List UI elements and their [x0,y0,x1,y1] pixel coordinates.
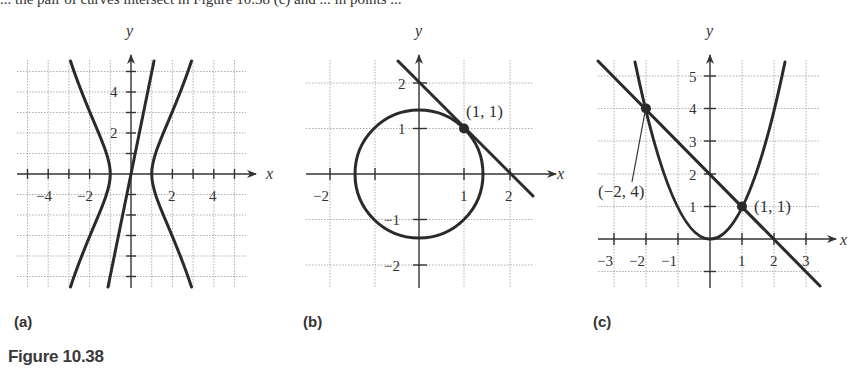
panel-a-x-axis-label: x [265,165,273,182]
panel-c-point-label-a: (−2, 4) [598,182,644,201]
y-tick-label: 2 [398,76,406,92]
y-tick-label: 4 [110,84,118,100]
y-tick-label: 5 [689,69,697,85]
panel-a-y-axis-label: y [124,22,134,40]
x-tick-label: −3 [597,253,613,269]
y-tick-label: −1 [384,212,400,228]
x-tick-label: −2 [313,188,329,204]
panel-b-x-axis-label: x [556,165,564,182]
panel-c-y-axis-label: y [704,22,714,40]
panel-c-label: (c) [593,313,611,330]
x-tick-label: −4 [36,188,52,204]
panel-c-x-axis-label: x [839,231,847,248]
x-tick-label: 2 [770,253,778,269]
y-tick-label: 1 [689,199,697,215]
x-tick-label: 2 [168,188,176,204]
y-tick-label: 4 [689,101,697,117]
y-tick-label: −2 [384,258,400,274]
y-tick-label: 2 [689,167,697,183]
x-tick-label: −1 [661,253,677,269]
x-tick-label: 3 [802,253,810,269]
y-tick-label: 2 [110,125,118,141]
panel-a-plot: −4 −2 2 4 4 2 x y [17,22,273,288]
panel-b-label: (b) [303,313,322,330]
y-tick-label: 3 [689,134,697,150]
panel-b-plot: −2 1 2 2 1 −1 −2 x y (1, 1) [306,22,564,288]
panel-a-label: (a) [14,313,32,330]
panel-a-tick-labels: −4 −2 2 4 4 2 [36,84,217,204]
x-tick-label: 1 [738,253,746,269]
figure-caption: Figure 10.38 [8,347,104,367]
panel-b-point-1-1 [459,124,469,134]
panel-b-y-axis-label: y [413,22,423,40]
x-tick-label: 1 [460,188,468,204]
x-tick-label: −2 [629,253,645,269]
x-tick-label: −2 [77,188,93,204]
panel-c-point-label-b: (1, 1) [754,197,791,216]
panel-c-plot: −3 −2 −1 1 2 3 5 4 3 2 1 x y (−2, 4) (1,… [597,22,847,288]
y-tick-label: 1 [398,121,406,137]
panel-c-point-neg2-4 [641,104,651,114]
panel-c-point-1-1 [737,202,747,212]
panel-b-point-label: (1, 1) [466,102,503,121]
panel-c-leader-line [632,112,645,182]
figure-canvas: −4 −2 2 4 4 2 x y [0,0,862,373]
x-tick-label: 4 [209,188,217,204]
x-tick-label: 2 [505,188,513,204]
